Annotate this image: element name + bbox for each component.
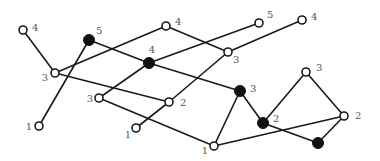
node-label-E: 4 <box>311 11 317 22</box>
edge-B-G <box>89 40 149 63</box>
node-label-J: 2 <box>180 97 186 108</box>
node-label-P: 2 <box>355 110 361 121</box>
open-node-I <box>95 94 103 102</box>
edge-R-M <box>214 91 240 146</box>
graph-svg: 45454343321133221 <box>0 0 380 161</box>
edge-A-F <box>23 30 55 73</box>
node-label-A: 4 <box>32 22 38 33</box>
node-label-R: 1 <box>202 145 208 156</box>
edge-G-I <box>99 63 149 98</box>
open-node-A <box>19 26 27 34</box>
node-label-C: 4 <box>175 16 181 27</box>
node-label-O: 2 <box>273 113 279 124</box>
edge-F-J <box>55 73 169 102</box>
node-label-N: 3 <box>316 62 322 73</box>
open-node-F <box>51 69 59 77</box>
filled-node-Q <box>313 138 324 149</box>
nodes-layer <box>19 16 348 150</box>
edge-H-J <box>169 52 228 102</box>
edge-B-K <box>39 40 89 126</box>
node-label-L: 1 <box>125 129 131 140</box>
edge-H-E <box>228 20 302 52</box>
edge-O-N <box>263 72 306 123</box>
open-node-R <box>210 142 218 150</box>
filled-node-B <box>84 35 95 46</box>
open-node-D <box>255 19 263 27</box>
open-node-J <box>165 98 173 106</box>
node-label-G: 4 <box>149 44 155 55</box>
labels-layer: 45454343321133221 <box>26 9 362 156</box>
node-label-M: 3 <box>250 83 256 94</box>
edge-N-P <box>306 72 344 116</box>
node-label-H: 3 <box>233 54 239 65</box>
edges-layer <box>23 20 344 146</box>
graph-diagram: 45454343321133221 <box>0 0 380 161</box>
open-node-L <box>132 124 140 132</box>
open-node-H <box>224 48 232 56</box>
node-label-B: 5 <box>96 25 102 36</box>
filled-node-G <box>144 58 155 69</box>
open-node-E <box>298 16 306 24</box>
filled-node-O <box>258 118 269 129</box>
node-label-K: 1 <box>26 121 32 132</box>
node-label-F: 3 <box>42 72 48 83</box>
filled-node-M <box>235 86 246 97</box>
node-label-I: 3 <box>87 93 93 104</box>
open-node-K <box>35 122 43 130</box>
edge-G-M <box>149 63 240 91</box>
edge-I-R <box>99 98 214 146</box>
open-node-C <box>162 22 170 30</box>
edge-C-H <box>166 26 228 52</box>
open-node-N <box>302 68 310 76</box>
open-node-P <box>340 112 348 120</box>
node-label-D: 5 <box>267 9 273 20</box>
